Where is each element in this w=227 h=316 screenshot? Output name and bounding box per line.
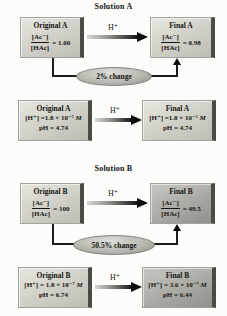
box-title: Original B: [34, 187, 68, 196]
ratio-fraction: [Ac⁻][HAc] = 1.00: [31, 33, 71, 52]
ph-text: pH = 4.74: [39, 123, 68, 133]
connector-line: [176, 230, 178, 243]
original-a-ratio-box: Original A [Ac⁻][HAc] = 1.00: [20, 17, 84, 58]
fraction-numerator: [Ac⁻]: [161, 199, 180, 209]
ratio-fraction: [Ac⁻][HAc] = 100: [32, 199, 70, 218]
molarity-unit: M: [76, 281, 82, 289]
molarity-unit: M: [200, 281, 206, 289]
box-title: Original A: [37, 104, 71, 113]
fraction-numerator: [Ac⁻]: [31, 33, 50, 43]
h-plus-label: H⁺: [95, 106, 135, 115]
solution-a-title: Solution A: [0, 2, 227, 11]
final-a-ratio-box: Final A [Ac⁻][HAc] = 0.98: [150, 17, 215, 58]
final-b-ph-box: Final B [H⁺] = 3.6 × 10⁻⁷ M pH = 6.44: [142, 267, 216, 308]
h-concentration-text: [H⁺] = 3.6 × 10⁻⁷ M: [148, 280, 206, 290]
arrowhead-up-icon: [173, 224, 181, 231]
arrowhead-right-icon: [131, 115, 142, 125]
arrow-shaft: [87, 201, 138, 205]
ph-text: pH = 6.44: [163, 290, 192, 300]
box-title: Final A: [166, 104, 190, 113]
connector-line: [176, 64, 178, 77]
change-percent-badge: 50.5% change: [73, 235, 155, 255]
solution-b-title: Solution B: [0, 164, 227, 173]
h-plus-label: H⁺: [90, 23, 136, 32]
h-concentration-text: [H⁺] = 1.8 × 10⁻⁷ M: [24, 280, 82, 290]
fraction-denominator: [HAc]: [32, 209, 50, 218]
ratio-fraction: [Ac⁻][HAc] = 49.5: [161, 199, 201, 218]
original-b-ratio-box: Original B [Ac⁻][HAc] = 100: [20, 183, 84, 224]
box-title: Final B: [169, 187, 193, 196]
fraction-value: = 49.5: [183, 205, 201, 213]
fraction-numerator: [Ac⁻]: [161, 33, 180, 43]
h-concentration-text: [H⁺] =1.8 × 10⁻⁵ M: [149, 113, 206, 123]
connector-line: [52, 224, 54, 245]
molarity-unit: M: [200, 114, 206, 122]
buffer-comparison-figure: Solution A Original A [Ac⁻][HAc] = 1.00 …: [0, 0, 227, 316]
box-title: Final A: [169, 21, 193, 30]
fraction-denominator: [HAc]: [161, 43, 179, 52]
change-percent-badge: 2% change: [76, 67, 152, 86]
arrowhead-right-icon: [137, 32, 148, 42]
molarity-unit: M: [76, 114, 82, 122]
arrowhead-right-icon: [131, 282, 142, 292]
fraction-value: = 1.00: [52, 39, 70, 47]
arrowhead-up-icon: [173, 58, 181, 65]
final-b-ratio-box: Final B [Ac⁻][HAc] = 49.5: [150, 183, 215, 224]
ph-text: pH = 6.74: [39, 290, 68, 300]
original-b-ph-box: Original B [H⁺] = 1.8 × 10⁻⁷ M pH = 6.74: [18, 267, 92, 308]
original-a-ph-box: Original A [H⁺] =1.8 × 10⁻⁵ M pH = 4.74: [18, 100, 92, 141]
h-concentration-text: [H⁺] =1.8 × 10⁻⁵ M: [25, 113, 82, 123]
arrow-shaft: [87, 35, 138, 39]
fraction-denominator: [HAc]: [161, 209, 179, 218]
fraction-value: = 0.98: [183, 39, 201, 47]
arrow-shaft: [95, 118, 132, 122]
fraction-denominator: [HAc]: [31, 43, 49, 52]
h-plus-label: H⁺: [90, 189, 136, 198]
fraction-numerator: [Ac⁻]: [32, 199, 51, 209]
ratio-fraction: [Ac⁻][HAc] = 0.98: [161, 33, 201, 52]
final-a-ph-box: Final A [H⁺] =1.8 × 10⁻⁵ M pH = 4.74: [142, 100, 216, 141]
box-title: Original B: [37, 271, 71, 280]
ph-text: pH = 4.74: [163, 123, 192, 133]
box-title: Original A: [34, 21, 68, 30]
h-plus-label: H⁺: [95, 273, 135, 282]
box-title: Final B: [166, 271, 190, 280]
arrowhead-right-icon: [137, 198, 148, 208]
fraction-value: = 100: [53, 205, 69, 213]
arrow-shaft: [95, 285, 132, 289]
